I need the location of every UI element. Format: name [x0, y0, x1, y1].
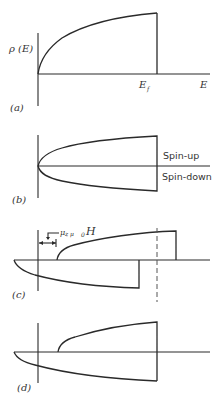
spin-down-label: Spin-down [162, 171, 212, 182]
panel-label-d: (d) [17, 382, 31, 393]
panel-b: Spin-up Spin-down (b) [12, 135, 212, 205]
zeeman-shift-H: H [85, 225, 96, 238]
panel-d: (d) [14, 322, 210, 393]
dos-curve [38, 13, 157, 74]
arrowhead-right-icon [52, 241, 56, 245]
spin-down-band [14, 352, 157, 381]
panel-label-a: (a) [10, 102, 24, 113]
spin-down-band [14, 260, 139, 288]
y-axis-label: ρ (E) [8, 43, 33, 54]
panel-c: μ z μ 0 H (c) [12, 225, 210, 302]
x-axis-label: E [199, 79, 208, 90]
panel-label-c: (c) [12, 289, 26, 300]
leader-arrow-icon [46, 237, 50, 240]
panel-label-b: (b) [12, 194, 26, 205]
fermi-energy-label: E [138, 79, 147, 90]
spin-split-dos [38, 136, 157, 191]
spin-up-band [57, 231, 176, 260]
panel-a: ρ (E) E f E (a) [8, 13, 210, 113]
density-of-states-figure: ρ (E) E f E (a) Spin-up Spin-down (b) μ … [0, 0, 220, 406]
leader-line [48, 233, 59, 239]
zeeman-shift-sub0: 0 [81, 231, 85, 238]
fermi-energy-subscript: f [146, 85, 151, 93]
spin-up-label: Spin-up [163, 150, 199, 161]
zeeman-shift-sub: z μ [64, 230, 74, 238]
arrowhead-left-icon [39, 241, 43, 245]
